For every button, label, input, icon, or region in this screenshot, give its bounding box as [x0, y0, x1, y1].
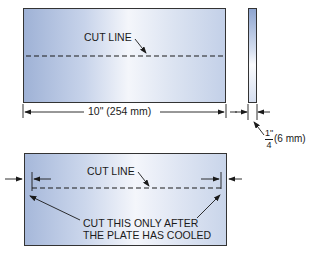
- note-line2: THE PLATE HAS COOLED: [83, 230, 211, 241]
- thickness-numerator: 1": [264, 129, 274, 138]
- bottom-cut-line-label: CUT LINE: [87, 166, 135, 177]
- top-cut-line-label: CUT LINE: [84, 32, 132, 43]
- thickness-denominator: 4: [264, 141, 274, 150]
- note-line1: CUT THIS ONLY AFTER: [83, 218, 198, 229]
- thickness-metric: (6 mm): [274, 134, 306, 144]
- width-dimension-label: 10" (254 mm): [88, 106, 151, 117]
- top-cut-line-arrow: [135, 39, 146, 53]
